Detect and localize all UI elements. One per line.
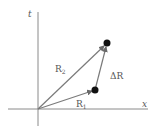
r2-label-sub: 2: [62, 68, 66, 75]
x-axis-label: x: [142, 99, 147, 109]
event-point-2: [104, 40, 111, 47]
spacetime-vector-diagram: t x R2 ΔR R1: [0, 0, 156, 132]
t-axis-label: t: [28, 9, 32, 19]
r2-label: R2: [55, 64, 66, 75]
r1-label-sub: 1: [83, 103, 87, 110]
event-point-1: [92, 87, 99, 94]
vector-r2: [38, 46, 104, 109]
r1-label: R1: [76, 99, 87, 110]
delta-r-label: ΔR: [110, 71, 123, 81]
